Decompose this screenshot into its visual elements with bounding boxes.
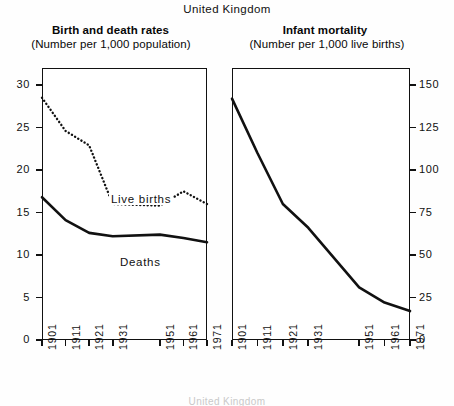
y-axis-tick-label: 75 — [419, 207, 453, 218]
chart-canvas — [0, 0, 454, 406]
x-tick-mark — [112, 340, 114, 346]
x-axis-tick-label: 1911 — [262, 324, 273, 350]
y-tick-mark — [36, 84, 42, 86]
y-tick-mark — [36, 169, 42, 171]
y-axis-tick-label: 10 — [0, 249, 30, 260]
x-tick-mark — [159, 340, 161, 346]
x-tick-mark — [231, 340, 233, 346]
y-axis-tick-label: 25 — [419, 292, 453, 303]
x-tick-mark — [358, 340, 360, 346]
y-axis-tick-label: 5 — [0, 292, 30, 303]
y-tick-mark — [410, 212, 416, 214]
x-axis-tick-label: 1911 — [71, 324, 82, 350]
y-axis-tick-label: 125 — [419, 122, 453, 133]
x-axis-tick-label: 1951 — [364, 323, 375, 350]
y-tick-mark — [410, 254, 416, 256]
x-axis-tick-label: 1931 — [118, 323, 129, 350]
x-axis-tick-label: 1971 — [415, 323, 426, 350]
x-tick-mark — [257, 340, 259, 346]
x-axis-tick-label: 1921 — [94, 323, 105, 350]
x-tick-mark — [206, 340, 208, 346]
y-tick-mark — [410, 169, 416, 171]
x-axis-tick-label: 1951 — [165, 323, 176, 350]
y-tick-mark — [410, 84, 416, 86]
x-tick-mark — [41, 340, 43, 346]
y-tick-mark — [36, 297, 42, 299]
y-axis-tick-label: 150 — [419, 79, 453, 90]
footnote: United Kingdom — [0, 396, 454, 406]
x-tick-mark — [88, 340, 90, 346]
y-tick-mark — [410, 297, 416, 299]
y-axis-tick-label: 30 — [0, 79, 30, 90]
y-axis-tick-label: 20 — [0, 164, 30, 175]
x-axis-tick-label: 1971 — [212, 323, 223, 350]
chart-page: United Kingdom Birth and death rates (Nu… — [0, 0, 454, 406]
y-tick-mark — [36, 254, 42, 256]
series-line-live-births — [42, 98, 207, 206]
x-axis-tick-label: 1961 — [188, 323, 199, 350]
x-tick-mark — [384, 340, 386, 346]
x-tick-mark — [183, 340, 185, 346]
x-axis-tick-label: 1931 — [313, 323, 324, 350]
y-axis-tick-label: 0 — [0, 334, 30, 345]
x-axis-tick-label: 1961 — [390, 323, 401, 350]
x-tick-mark — [307, 340, 309, 346]
y-tick-mark — [36, 212, 42, 214]
y-axis-tick-label: 15 — [0, 207, 30, 218]
x-tick-mark — [282, 340, 284, 346]
y-tick-mark — [36, 127, 42, 129]
x-axis-tick-label: 1921 — [288, 323, 299, 350]
x-tick-mark — [409, 340, 411, 346]
y-axis-tick-label: 25 — [0, 122, 30, 133]
x-axis-tick-label: 1901 — [237, 323, 248, 350]
x-tick-mark — [65, 340, 67, 346]
series-label-deaths: Deaths — [118, 256, 163, 268]
series-label-live-births: Live births — [109, 193, 173, 205]
y-tick-mark — [410, 127, 416, 129]
y-axis-tick-label: 50 — [419, 249, 453, 260]
series-line-infant-mortality — [232, 99, 410, 312]
x-axis-tick-label: 1901 — [47, 323, 58, 350]
y-axis-tick-label: 100 — [419, 164, 453, 175]
